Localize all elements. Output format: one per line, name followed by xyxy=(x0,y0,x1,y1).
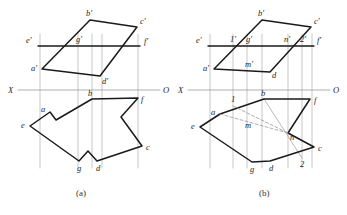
panel-a: XOb'c'e'g'f'a'd'bfaecgd xyxy=(7,8,169,173)
a-point-label-cp: c' xyxy=(140,16,146,26)
a-point-label-fp: f' xyxy=(144,36,148,46)
b-point-label-b: b xyxy=(261,88,265,98)
a-point-label-b: b xyxy=(88,88,92,98)
b-point-label-dp: d xyxy=(272,70,277,80)
b-point-label-2: 2 xyxy=(300,159,305,169)
a-point-label-g: g xyxy=(77,163,81,173)
a-upper-polygon xyxy=(42,20,137,76)
b-point-label-d: d xyxy=(269,163,274,173)
b-point-label-cp: c' xyxy=(314,16,320,26)
a-lower-polygon xyxy=(30,98,142,161)
a-point-label-dp: d' xyxy=(102,76,108,86)
a-point-label-ep: e' xyxy=(26,35,32,45)
b-axis-label-x: X xyxy=(177,85,184,95)
a-point-label-d: d xyxy=(96,163,101,173)
projection-diagram: XOb'c'e'g'f'a'd'bfaecgd XOb'c'e'1'g'n'2'… xyxy=(0,0,347,215)
a-point-label-bp: b' xyxy=(86,8,92,18)
a-point-label-ap: a' xyxy=(31,63,37,73)
b-axis-label-o: O xyxy=(333,85,339,95)
b-dashed-line-1 xyxy=(233,106,288,133)
b-point-label-f: f xyxy=(314,95,318,105)
b-point-label-a: a xyxy=(211,107,215,117)
a-point-label-a: a xyxy=(41,104,45,114)
b-lower-polygon xyxy=(200,99,314,162)
b-point-label-gp: g' xyxy=(246,34,252,44)
b-point-label-ap: a' xyxy=(203,63,209,73)
b-point-label-mp: m' xyxy=(245,59,253,69)
b-point-label-2p: 2' xyxy=(300,34,306,44)
b-point-label-n: n xyxy=(290,132,294,142)
caption-b: (b) xyxy=(259,188,270,198)
b-point-label-g: g xyxy=(250,164,254,174)
a-point-label-gp: g' xyxy=(76,34,82,44)
b-point-label-1: 1 xyxy=(231,94,235,104)
b-dashed-line-0 xyxy=(220,114,288,133)
b-point-label-m: m xyxy=(245,120,251,130)
a-point-label-e: e xyxy=(21,120,25,130)
panel-b: XOb'c'e'1'g'n'2'f'm'a'db1famencgd2 xyxy=(177,8,339,174)
b-point-label-1p: 1' xyxy=(230,34,236,44)
b-point-label-e: e xyxy=(191,121,195,131)
b-point-label-bp: b' xyxy=(258,8,264,18)
a-point-label-f: f xyxy=(141,94,145,104)
b-point-label-ep: e' xyxy=(196,35,202,45)
a-axis-label-x: X xyxy=(7,85,14,95)
b-point-label-c: c xyxy=(318,143,322,153)
caption-a: (a) xyxy=(76,188,86,198)
b-point-label-np: n' xyxy=(284,34,290,44)
figure-root: XOb'c'e'g'f'a'd'bfaecgd XOb'c'e'1'g'n'2'… xyxy=(0,0,347,215)
a-point-label-c: c xyxy=(146,142,150,152)
b-point-label-fp: f' xyxy=(317,35,321,45)
b-aux-line-0 xyxy=(264,99,302,158)
a-axis-label-o: O xyxy=(163,85,169,95)
